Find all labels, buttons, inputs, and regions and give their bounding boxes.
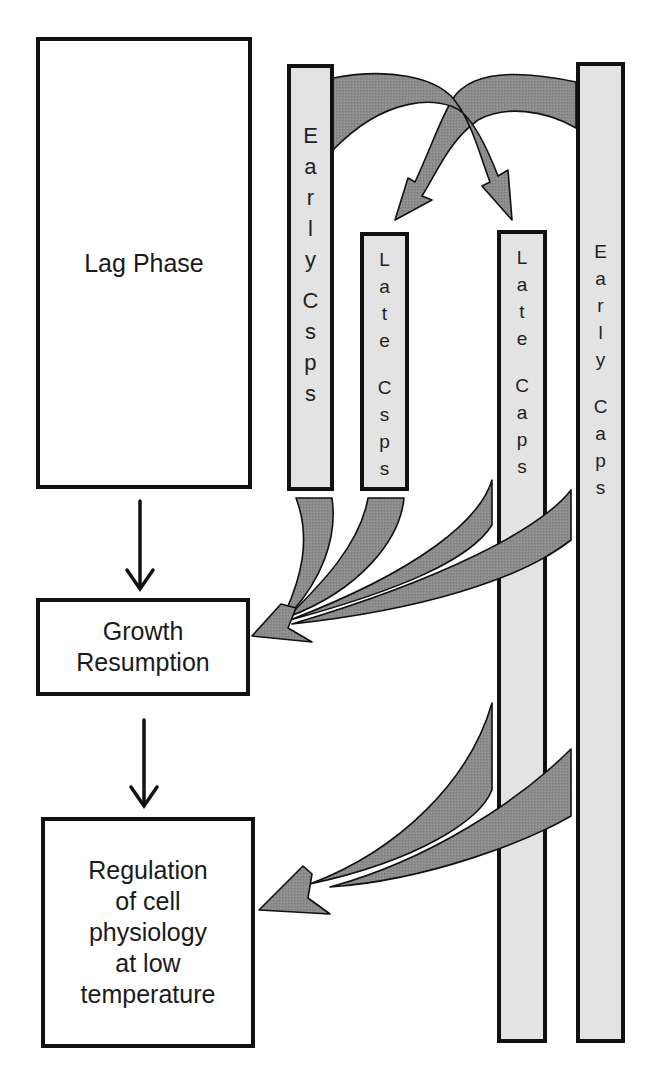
lag-phase-label: Lag Phase (84, 248, 204, 279)
late-caps-label: La te Ca ps (515, 244, 529, 1039)
flow-arrowhead-regulation (259, 866, 330, 914)
regulation-label: Regulation of cell physiology at low tem… (81, 855, 216, 1010)
growth-resumption-label: Growth Resumption (76, 616, 209, 678)
lag-phase-box: Lag Phase (36, 37, 252, 489)
flow-latecaps-to-regulation (310, 703, 492, 884)
late-csps-bar: La te Cs ps (360, 232, 409, 491)
flow-earlycsps-to-growth (285, 498, 333, 613)
flow-earlycsps-to-latecaps (333, 74, 512, 220)
flow-earlycaps-to-latecsps (395, 75, 576, 220)
flow-latecaps-to-growth (290, 480, 492, 620)
early-caps-label: Ea rl y Ca ps (594, 238, 608, 1039)
flow-arrowhead-growth (252, 604, 312, 642)
diagram-canvas: Lag Phase Growth Resumption Regulation o… (0, 0, 657, 1085)
early-caps-bar: Ea rl y Ca ps (576, 62, 625, 1043)
regulation-box: Regulation of cell physiology at low tem… (41, 817, 255, 1048)
early-csps-label: Ea rl y Cs ps (303, 120, 319, 487)
arrow-growth-to-regulation (131, 720, 157, 806)
arrow-lag-to-growth (127, 501, 153, 589)
late-caps-bar: La te Ca ps (497, 230, 547, 1043)
late-csps-label: La te Cs ps (378, 246, 392, 487)
early-csps-bar: Ea rl y Cs ps (287, 64, 334, 491)
growth-resumption-box: Growth Resumption (36, 598, 250, 696)
flow-latecsps-to-growth (288, 498, 404, 617)
